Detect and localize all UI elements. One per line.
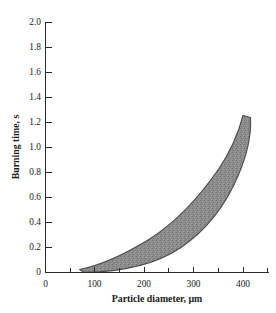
x-tick-label: 300 (186, 279, 200, 289)
y-tick-label: 1.0 (29, 142, 41, 152)
y-tick-label: 0.2 (29, 242, 41, 252)
y-axis-title: Burning time, s (10, 115, 21, 180)
chart-svg: 0 0.2 0.4 0.6 0.8 1.0 1.2 1.4 1.6 1.8 2.… (0, 0, 276, 313)
x-tick-label: 400 (236, 279, 250, 289)
x-tick-label: 100 (87, 279, 101, 289)
y-tick-label: 1.4 (29, 92, 41, 102)
y-tick-label: 1.2 (29, 117, 41, 127)
chart-figure: 0 0.2 0.4 0.6 0.8 1.0 1.2 1.4 1.6 1.8 2.… (0, 0, 276, 313)
x-tick-label: 0 (43, 279, 48, 289)
y-tick-label: 0.6 (29, 192, 41, 202)
y-tick-label: 1.6 (29, 67, 41, 77)
y-tick-label: 0 (36, 267, 41, 277)
x-axis-title: Particle diameter, µm (112, 293, 202, 304)
y-tick-label: 2.0 (29, 17, 41, 27)
y-tick-label: 0.4 (29, 217, 41, 227)
x-tick-label: 200 (137, 279, 151, 289)
y-tick-label: 0.8 (29, 167, 41, 177)
y-tick-label: 1.8 (29, 42, 41, 52)
